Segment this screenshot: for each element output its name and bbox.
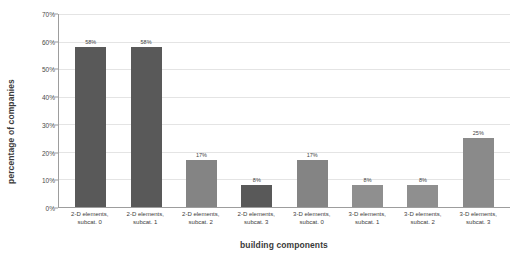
y-axis-tick-label: 10% [42, 177, 55, 184]
y-axis-tick-label: 0% [46, 205, 55, 212]
bar-slot: 58% [118, 14, 173, 207]
x-axis-tick-label: 3-D elements,subcat. 1 [340, 210, 396, 236]
bar-value-label: 8% [364, 177, 372, 183]
x-axis-tick-label: 2-D elements,subcat. 1 [118, 210, 174, 236]
bar[interactable]: 58% [131, 47, 162, 207]
x-axis-tick-label: 2-D elements,subcat. 3 [229, 210, 285, 236]
bar-value-label: 58% [141, 39, 152, 45]
bar-value-label: 8% [253, 177, 261, 183]
bar[interactable]: 8% [241, 185, 272, 207]
x-axis-tick-label: 2-D elements,subcat. 0 [62, 210, 118, 236]
bar[interactable]: 17% [186, 160, 217, 207]
bar-series: 58%58%17%8%17%8%8%25% [59, 14, 510, 207]
bar[interactable]: 17% [297, 160, 328, 207]
bar-chart: percentage of companies 0%10%20%30%40%50… [0, 0, 518, 263]
bar[interactable]: 25% [463, 138, 494, 207]
x-axis-tick-labels: 2-D elements,subcat. 02-D elements,subca… [58, 210, 510, 236]
x-axis-tick-label: 3-D elements,subcat. 3 [451, 210, 507, 236]
y-axis-tick-label: 60% [42, 38, 55, 45]
bar-value-label: 58% [85, 39, 96, 45]
y-axis-tick-label: 70% [42, 11, 55, 18]
bar[interactable]: 58% [75, 47, 106, 207]
y-axis-tick-label: 30% [42, 121, 55, 128]
y-axis-tick-label: 40% [42, 94, 55, 101]
bar-value-label: 17% [307, 152, 318, 158]
bar-slot: 58% [63, 14, 118, 207]
x-axis-tick-label: 2-D elements,subcat. 2 [173, 210, 229, 236]
x-axis-tick-label: 3-D elements,subcat. 2 [395, 210, 451, 236]
bar-value-label: 25% [473, 130, 484, 136]
y-axis-title: percentage of companies [0, 0, 22, 263]
bar-value-label: 17% [196, 152, 207, 158]
y-axis-tick-labels: 0%10%20%30%40%50%60%70% [22, 14, 58, 208]
bar[interactable]: 8% [407, 185, 438, 207]
x-axis-title: building components [58, 240, 510, 250]
bar[interactable]: 8% [352, 185, 383, 207]
bar-slot: 25% [451, 14, 506, 207]
plot-area: 58%58%17%8%17%8%8%25% [58, 14, 510, 208]
y-axis-tick-label: 20% [42, 149, 55, 156]
bar-slot: 8% [395, 14, 450, 207]
x-axis-tick-label: 3-D elements,subcat. 0 [284, 210, 340, 236]
bar-slot: 8% [229, 14, 284, 207]
y-axis-tick-label: 50% [42, 66, 55, 73]
bar-slot: 8% [340, 14, 395, 207]
bar-value-label: 8% [419, 177, 427, 183]
bar-slot: 17% [285, 14, 340, 207]
bar-slot: 17% [174, 14, 229, 207]
